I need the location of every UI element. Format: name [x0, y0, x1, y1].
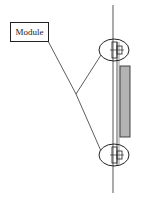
grey-panel — [120, 66, 130, 137]
leader-line-bottom — [76, 94, 101, 151]
leader-line-main — [48, 41, 76, 94]
bottom-module-bracket — [110, 147, 124, 163]
module-label-text: Module — [16, 28, 44, 37]
module-label: Module — [10, 22, 49, 42]
top-module-bracket — [110, 42, 124, 58]
leader-line-top — [76, 55, 101, 94]
